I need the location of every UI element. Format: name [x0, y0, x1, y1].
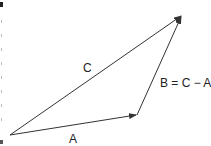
label-b-equation: B = C − A [160, 76, 211, 90]
label-c: C [83, 61, 92, 75]
left-edge-marks [0, 0, 3, 146]
vector-c-arrow [10, 16, 181, 135]
vector-diagram: C A B = C − A [0, 0, 211, 146]
label-a: A [69, 132, 77, 146]
